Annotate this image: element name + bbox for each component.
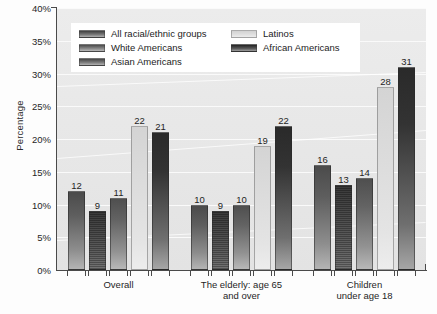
bar: 21: [152, 132, 168, 270]
bar-chart: Percentage 0%5%10%15%20%25%30%35%40% 129…: [0, 0, 437, 314]
y-axis-tick-label: 15%: [32, 166, 51, 177]
x-axis-tick: [232, 271, 233, 276]
bar: 9: [212, 211, 228, 270]
y-axis-tick-label: 25%: [32, 101, 51, 112]
legend-label: White Americans: [111, 42, 182, 53]
bar-value-label: 10: [194, 194, 205, 205]
y-axis-tick-labels: 0%5%10%15%20%25%30%35%40%: [0, 0, 55, 314]
legend-item: White Americans: [79, 41, 231, 55]
x-axis-tick: [169, 271, 170, 276]
x-axis-tick: [373, 271, 374, 276]
bar: 28: [377, 87, 393, 270]
bar: 16: [314, 165, 330, 270]
gridline: [57, 106, 426, 107]
legend-label: Latinos: [263, 28, 294, 39]
bar-value-label: 12: [71, 180, 82, 191]
x-axis-tick: [109, 271, 110, 276]
bar: 14: [356, 178, 372, 270]
legend-swatch: [79, 44, 105, 52]
legend-swatch: [231, 30, 257, 38]
bar: 10: [191, 205, 207, 271]
x-axis-tick: [85, 271, 86, 276]
y-axis-tick-label: 30%: [32, 68, 51, 79]
x-axis-tick: [274, 271, 275, 276]
legend-spacer: [231, 55, 368, 69]
x-axis-tick: [148, 271, 149, 276]
x-axis-tick: [208, 271, 209, 276]
bar: 10: [233, 205, 249, 271]
bar-value-label: 21: [155, 121, 166, 132]
legend-item: Asian Americans: [79, 55, 231, 69]
x-axis-group-label: The elderly: age 65 and over: [201, 279, 282, 301]
gridline: [57, 74, 426, 75]
bar-value-label: 31: [401, 56, 412, 67]
bar: 31: [398, 67, 414, 270]
bar-value-label: 10: [236, 194, 247, 205]
y-axis-tick-label: 0%: [37, 265, 51, 276]
gridline: [57, 139, 426, 140]
x-axis-tick: [271, 271, 272, 276]
bar: 19: [254, 146, 270, 271]
bar-value-label: 16: [317, 154, 328, 165]
bar-value-label: 11: [114, 187, 124, 198]
x-axis-tick: [397, 271, 398, 276]
x-axis-tick: [127, 271, 128, 276]
x-axis-tick: [313, 271, 314, 276]
legend-label: African Americans: [263, 42, 340, 53]
bar: 13: [335, 185, 351, 270]
bar-value-label: 22: [134, 115, 145, 126]
y-axis-tick-label: 40%: [32, 3, 51, 14]
x-axis-tick: [130, 271, 131, 276]
bar: 12: [68, 191, 84, 270]
x-axis-tick: [415, 271, 416, 276]
gridline: [57, 8, 426, 9]
x-axis-tick: [250, 271, 251, 276]
legend-item: Latinos: [231, 27, 368, 41]
bar: 9: [89, 211, 105, 270]
y-axis-tick-label: 35%: [32, 35, 51, 46]
bar-value-label: 28: [380, 76, 391, 87]
legend-item: African Americans: [231, 41, 368, 55]
x-axis-tick: [253, 271, 254, 276]
x-axis-tick: [151, 271, 152, 276]
x-axis-tick: [67, 271, 68, 276]
x-axis-tick: [334, 271, 335, 276]
x-axis-line: [56, 270, 427, 271]
legend-label: Asian Americans: [111, 56, 182, 67]
y-axis-tick-label: 10%: [32, 199, 51, 210]
legend-swatch: [231, 44, 257, 52]
x-axis-tick: [331, 271, 332, 276]
y-axis-top-cap: [51, 7, 57, 8]
y-axis-tick-label: 5%: [37, 232, 51, 243]
bar-value-label: 9: [218, 200, 223, 211]
x-axis-tick: [376, 271, 377, 276]
legend-swatch: [79, 58, 105, 66]
bar-value-label: 14: [359, 167, 370, 178]
bar: 22: [131, 126, 147, 270]
x-axis-tick: [229, 271, 230, 276]
y-axis-tick-label: 20%: [32, 134, 51, 145]
chart-legend: All racial/ethnic groupsLatinosWhite Ame…: [71, 23, 360, 72]
x-axis-tick: [394, 271, 395, 276]
x-axis-tick: [211, 271, 212, 276]
bar: 22: [275, 126, 291, 270]
x-axis-tick: [190, 271, 191, 276]
x-axis-tick: [292, 271, 293, 276]
x-axis-tick: [106, 271, 107, 276]
x-axis-tick: [352, 271, 353, 276]
y-axis-line: [56, 8, 57, 271]
x-axis-tick: [88, 271, 89, 276]
x-axis-tick: [355, 271, 356, 276]
x-axis-right-cap: [425, 264, 426, 271]
x-axis-group-label: Overall: [103, 279, 133, 290]
legend-label: All racial/ethnic groups: [111, 28, 207, 39]
bar-value-label: 9: [95, 200, 100, 211]
bar-value-label: 13: [338, 174, 349, 185]
bar: 11: [110, 198, 126, 270]
legend-item: All racial/ethnic groups: [79, 27, 231, 41]
legend-swatch: [79, 30, 105, 38]
bar-value-label: 19: [257, 135, 268, 146]
bar-value-label: 22: [278, 115, 289, 126]
x-axis-group-label: Children under age 18: [337, 279, 393, 301]
gridline: [57, 172, 426, 173]
